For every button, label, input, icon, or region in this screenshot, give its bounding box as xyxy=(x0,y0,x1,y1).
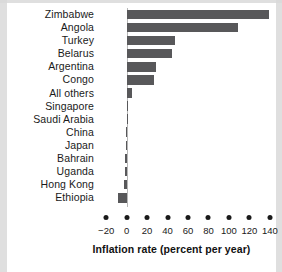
category-label: Bahrain xyxy=(7,152,94,165)
bar xyxy=(127,36,175,46)
bar-track xyxy=(98,87,276,100)
bar-row: Singapore xyxy=(7,100,276,113)
category-label: Belarus xyxy=(7,47,94,60)
bar-row: All others xyxy=(7,87,276,100)
tick-label: 40 xyxy=(162,224,173,238)
tick-dot xyxy=(247,215,252,220)
bar-track xyxy=(98,47,276,60)
tick-dot xyxy=(186,215,191,220)
tick-label: 80 xyxy=(203,224,214,238)
bar-track xyxy=(98,139,276,152)
tick-dot xyxy=(267,215,272,220)
tick-dot xyxy=(226,215,231,220)
bar-track xyxy=(98,178,276,191)
bar-track xyxy=(98,165,276,178)
bar xyxy=(126,141,127,151)
category-label: Angola xyxy=(7,21,94,34)
bar-track xyxy=(98,8,276,21)
x-axis-tick-dots xyxy=(98,213,276,223)
tick-dot xyxy=(145,215,150,220)
bar xyxy=(127,101,128,111)
x-axis-title: Inflation rate (percent per year) xyxy=(7,243,276,255)
category-label: Turkey xyxy=(7,34,94,47)
category-label: Zimbabwe xyxy=(7,8,94,21)
category-label: Saudi Arabia xyxy=(7,113,94,126)
bar-row: Angola xyxy=(7,21,276,34)
category-label: Congo xyxy=(7,73,94,86)
tick-dot xyxy=(104,215,109,220)
bar xyxy=(127,23,239,33)
bar-track xyxy=(98,152,276,165)
tick-label: 140 xyxy=(262,224,278,238)
bar-track xyxy=(98,126,276,139)
bar xyxy=(125,154,126,164)
bar-row: Argentina xyxy=(7,60,276,73)
bar-track xyxy=(98,34,276,47)
bar xyxy=(127,88,132,98)
chart-page: ZimbabweAngolaTurkeyBelarusArgentinaCong… xyxy=(0,0,282,272)
bar xyxy=(124,180,127,190)
tick-dot xyxy=(206,215,211,220)
bar-row: Ethiopia xyxy=(7,191,276,204)
bar-row: Japan xyxy=(7,139,276,152)
category-label: Ethiopia xyxy=(7,191,94,204)
category-label: Argentina xyxy=(7,60,94,73)
bar-chart-plot-area: ZimbabweAngolaTurkeyBelarusArgentinaCong… xyxy=(7,0,276,272)
category-label: All others xyxy=(7,87,94,100)
bar xyxy=(127,62,157,72)
tick-label: 0 xyxy=(124,224,129,238)
bar xyxy=(126,127,127,137)
tick-label: 20 xyxy=(142,224,153,238)
bar-row: Congo xyxy=(7,73,276,86)
category-label: Hong Kong xyxy=(7,178,94,191)
category-label: Singapore xyxy=(7,100,94,113)
bar-track xyxy=(98,100,276,113)
page-left-edge-band xyxy=(0,0,7,272)
bar xyxy=(127,114,128,124)
bar-row: China xyxy=(7,126,276,139)
bar-rows: ZimbabweAngolaTurkeyBelarusArgentinaCong… xyxy=(7,8,276,204)
bar-track xyxy=(98,60,276,73)
bar xyxy=(127,49,172,59)
bar-track xyxy=(98,73,276,86)
tick-label: −20 xyxy=(98,224,114,238)
bar-row: Hong Kong xyxy=(7,178,276,191)
bar-track xyxy=(98,113,276,126)
bar-row: Zimbabwe xyxy=(7,8,276,21)
tick-label: 120 xyxy=(241,224,257,238)
bar-row: Saudi Arabia xyxy=(7,113,276,126)
bar-row: Turkey xyxy=(7,34,276,47)
x-axis-tick-labels: −20020406080100120140 xyxy=(98,224,276,238)
tick-dot xyxy=(165,215,170,220)
bar xyxy=(127,75,155,85)
tick-dot xyxy=(124,215,129,220)
bar-track xyxy=(98,21,276,34)
bar-track xyxy=(98,191,276,204)
bar xyxy=(127,10,269,20)
category-label: Uganda xyxy=(7,165,94,178)
bar-row: Bahrain xyxy=(7,152,276,165)
tick-label: 60 xyxy=(183,224,194,238)
bar-row: Belarus xyxy=(7,47,276,60)
bar-row: Uganda xyxy=(7,165,276,178)
category-label: China xyxy=(7,126,94,139)
bar xyxy=(118,193,126,203)
bar xyxy=(125,167,127,177)
tick-label: 100 xyxy=(221,224,237,238)
category-label: Japan xyxy=(7,139,94,152)
